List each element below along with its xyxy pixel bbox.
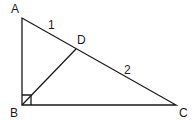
vertex-label-d: D [77, 33, 86, 47]
segment-label-dc: 2 [124, 63, 131, 77]
vertex-label-c: C [179, 106, 188, 120]
altitude-bd [22, 49, 76, 105]
triangle-abc [22, 18, 176, 105]
triangle-diagram: A B C D 1 2 [0, 0, 194, 121]
vertex-label-a: A [11, 2, 19, 16]
segment-label-ad: 1 [48, 18, 55, 32]
vertex-label-b: B [10, 106, 18, 120]
